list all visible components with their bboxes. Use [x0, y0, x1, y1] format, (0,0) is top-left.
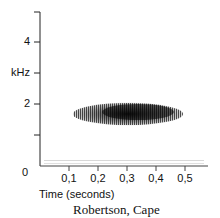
caption: Robertson, Cape — [73, 202, 160, 218]
y-axis-title: kHz — [0, 66, 30, 78]
x-tick-0-3: 0,3 — [115, 172, 139, 184]
x-tick-0-2: 0,2 — [86, 172, 110, 184]
spectrogram-plot — [0, 0, 220, 218]
baseline-noise — [44, 160, 204, 164]
y-tick-4: 4 — [0, 35, 30, 47]
x-tick-0-1: 0,1 — [57, 172, 81, 184]
y-tick-2: 2 — [0, 97, 30, 109]
energy-band — [72, 102, 184, 126]
x-axis-title: Time (seconds) — [39, 188, 114, 200]
x-tick-0-4: 0,4 — [144, 172, 168, 184]
x-tick-0-5: 0,5 — [173, 172, 197, 184]
y-tick-0: 0 — [0, 166, 28, 178]
